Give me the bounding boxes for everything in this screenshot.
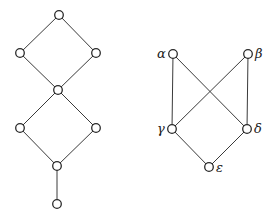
edges-layer <box>20 15 248 204</box>
nodes-layer <box>16 11 253 209</box>
left-lattice-node-a1 <box>55 11 64 20</box>
left-lattice-node-a6 <box>92 124 101 133</box>
right-poset-edge-gamma-epsilon <box>172 129 209 167</box>
right-poset-node-beta <box>244 50 253 59</box>
node-label-delta: δ <box>254 121 262 136</box>
node-label-beta: β <box>254 46 263 61</box>
right-poset-node-delta <box>243 125 252 134</box>
left-lattice-node-a7 <box>53 162 62 171</box>
left-lattice-node-a5 <box>16 124 25 133</box>
node-label-alpha: α <box>157 46 166 61</box>
hasse-diagrams-canvas: αβγδε <box>0 0 276 222</box>
right-poset-edge-delta-epsilon <box>209 129 247 167</box>
right-poset-node-gamma <box>168 125 177 134</box>
left-lattice-node-a2 <box>16 49 25 58</box>
left-lattice-node-a4 <box>54 86 63 95</box>
right-poset-node-alpha <box>169 50 178 59</box>
right-poset-node-epsilon <box>205 163 214 172</box>
left-lattice-edge-a5-a7 <box>20 128 57 166</box>
left-lattice-edge-a2-a4 <box>20 53 58 90</box>
left-lattice-edge-a1-a2 <box>20 15 59 53</box>
node-label-epsilon: ε <box>216 160 223 175</box>
left-lattice-edge-a6-a7 <box>57 128 96 166</box>
right-poset-edge-beta-delta <box>247 54 248 129</box>
left-lattice-node-a8 <box>53 200 62 209</box>
node-label-gamma: γ <box>157 121 165 136</box>
right-poset-edge-alpha-gamma <box>172 54 173 129</box>
left-lattice-edge-a1-a3 <box>59 15 96 53</box>
left-lattice-node-a3 <box>92 49 101 58</box>
left-lattice-edge-a3-a4 <box>58 53 96 90</box>
left-lattice-edge-a4-a5 <box>20 90 58 128</box>
left-lattice-edge-a4-a6 <box>58 90 96 128</box>
